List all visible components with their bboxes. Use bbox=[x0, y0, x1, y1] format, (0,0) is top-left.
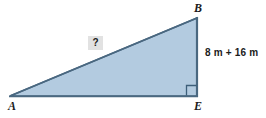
vertex-label-b: B bbox=[194, 2, 202, 14]
unknown-length-label-ab: ? bbox=[88, 36, 103, 50]
side-length-label-be: 8 m + 16 m bbox=[205, 48, 258, 58]
vertex-label-a: A bbox=[8, 100, 16, 112]
vertex-label-e: E bbox=[194, 100, 202, 112]
triangle-svg bbox=[0, 0, 266, 118]
geometry-figure: A B E 8 m + 16 m ? bbox=[0, 0, 266, 118]
